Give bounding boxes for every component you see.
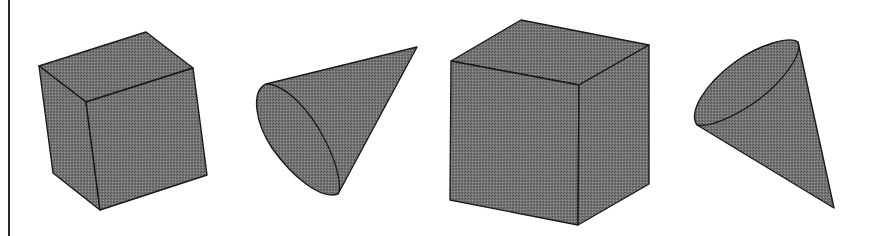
cone-2 (695, 40, 834, 208)
cube-2-front-face (450, 61, 579, 225)
figure-canvas (0, 0, 873, 236)
cone-1-body (257, 47, 417, 195)
cube-1 (39, 32, 207, 210)
cone-1 (257, 47, 417, 195)
cone-2-body (695, 40, 834, 208)
shapes-drawing (0, 0, 873, 236)
cube-2 (450, 20, 649, 225)
